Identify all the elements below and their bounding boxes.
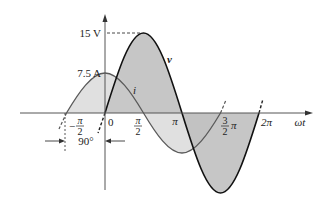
current-curve-label: i (133, 84, 136, 96)
tick-three-half-num: 3 (223, 115, 228, 126)
voltage-extension-right (259, 99, 263, 113)
tick-pi-half-num: π (135, 115, 141, 126)
voltage-peak-label: 15 V (80, 27, 102, 39)
phase-arrow-left-icon (59, 139, 65, 144)
current-extension-right (221, 100, 227, 113)
current-peak-label: 7.5 A (77, 67, 101, 79)
voltage-extension-left (98, 113, 105, 133)
x-axis-arrow-icon (305, 111, 313, 116)
tick-zero: 0 (108, 116, 114, 128)
phase-arrow-right-icon (105, 139, 111, 144)
y-axis-arrow-icon (103, 14, 108, 22)
tick-pi-half-den: 2 (136, 126, 141, 137)
voltage-curve-label: v (167, 53, 172, 65)
tick-pi: π (172, 115, 178, 127)
tick-three-half-den: 2 (223, 126, 228, 137)
x-axis-label: ωt (295, 116, 307, 128)
tick-two-pi: 2π (261, 116, 273, 128)
tick-minus-sign: − (69, 120, 75, 132)
tick-neg-pi-half-num: π (77, 115, 83, 126)
waveform-diagram: 15 V 7.5 A v i − π 2 0 π 2 π 3 2 π 2π ωt… (0, 0, 327, 207)
phase-difference-label: 90° (78, 135, 93, 147)
tick-three-half-pi: π (231, 119, 237, 131)
